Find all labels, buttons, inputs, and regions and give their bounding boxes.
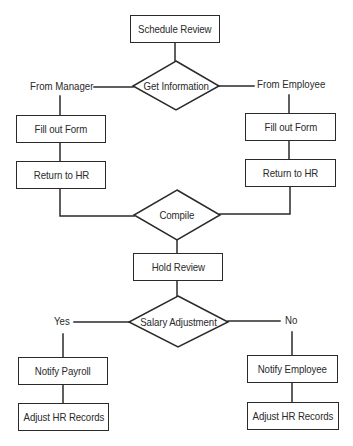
- node-label: Schedule Review: [138, 23, 211, 35]
- node-fill-out-form-employee: Fill out Form: [245, 113, 336, 141]
- diamond-label-salary-adjustment: Salary Adjustment: [129, 312, 228, 332]
- edge-label-yes: Yes: [54, 315, 70, 327]
- node-return-to-hr-employee: Return to HR: [245, 159, 336, 187]
- node-notify-payroll: Notify Payroll: [18, 357, 108, 385]
- node-label: Return to HR: [263, 167, 318, 179]
- connector-return-left-to-compile: [60, 188, 134, 216]
- node-label: Salary Adjustment: [140, 316, 217, 328]
- edge-label-from-manager: From Manager: [30, 80, 93, 92]
- node-schedule-review: Schedule Review: [130, 15, 220, 43]
- node-label: Hold Review: [151, 261, 204, 273]
- node-label: Return to HR: [33, 169, 88, 181]
- node-label: Adjust HR Records: [253, 410, 334, 422]
- diamond-label-compile: Compile: [134, 205, 220, 225]
- diamond-label-get-information: Get Information: [133, 76, 219, 96]
- edge-label-from-employee: From Employee: [257, 78, 325, 90]
- node-fill-out-form-manager: Fill out Form: [16, 115, 106, 143]
- node-label: Get Information: [143, 80, 208, 92]
- node-label: Adjust HR Records: [23, 411, 104, 423]
- node-adjust-hr-records-yes: Adjust HR Records: [18, 403, 109, 431]
- node-return-to-hr-manager: Return to HR: [16, 161, 106, 189]
- node-adjust-hr-records-no: Adjust HR Records: [247, 402, 339, 430]
- node-label: Compile: [160, 209, 195, 221]
- edge-label-no: No: [285, 314, 297, 326]
- node-label: Fill out Form: [35, 123, 88, 135]
- node-hold-review: Hold Review: [133, 253, 223, 281]
- connector-return-right-to-compile: [220, 186, 290, 214]
- node-label: Fill out Form: [264, 121, 317, 133]
- node-label: Notify Payroll: [35, 365, 91, 377]
- node-label: Notify Employee: [258, 363, 327, 375]
- node-notify-employee: Notify Employee: [247, 355, 338, 383]
